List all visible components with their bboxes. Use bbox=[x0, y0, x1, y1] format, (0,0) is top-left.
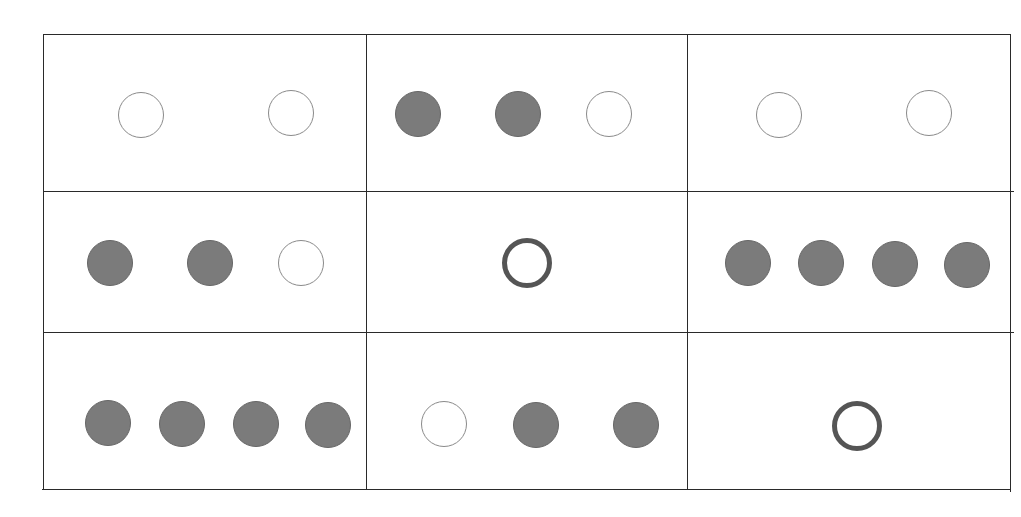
filled-circle-icon bbox=[85, 400, 131, 446]
filled-circle-icon bbox=[233, 401, 279, 447]
filled-circle-icon bbox=[944, 242, 990, 288]
grid-line-horizontal-2 bbox=[43, 191, 1014, 192]
empty-circle-icon bbox=[268, 90, 314, 136]
grid-line-horizontal-4 bbox=[42, 489, 1010, 490]
grid-line-vertical-1 bbox=[43, 34, 44, 490]
grid-line-horizontal-3 bbox=[43, 332, 1014, 333]
empty-circle-icon bbox=[421, 401, 467, 447]
grid-line-vertical-4 bbox=[1010, 34, 1011, 492]
filled-circle-icon bbox=[395, 91, 441, 137]
empty-circle-icon bbox=[586, 91, 632, 137]
thick-ring-icon bbox=[502, 238, 552, 288]
empty-circle-icon bbox=[756, 92, 802, 138]
filled-circle-icon bbox=[495, 91, 541, 137]
thick-ring-icon bbox=[832, 401, 882, 451]
filled-circle-icon bbox=[725, 240, 771, 286]
grid-line-vertical-2 bbox=[366, 34, 367, 490]
grid-line-vertical-3 bbox=[687, 34, 688, 490]
empty-circle-icon bbox=[906, 90, 952, 136]
filled-circle-icon bbox=[798, 240, 844, 286]
filled-circle-icon bbox=[187, 240, 233, 286]
empty-circle-icon bbox=[118, 92, 164, 138]
filled-circle-icon bbox=[305, 402, 351, 448]
filled-circle-icon bbox=[159, 401, 205, 447]
filled-circle-icon bbox=[87, 240, 133, 286]
grid-line-horizontal-1 bbox=[43, 34, 1010, 35]
filled-circle-icon bbox=[513, 402, 559, 448]
filled-circle-icon bbox=[613, 402, 659, 448]
filled-circle-icon bbox=[872, 241, 918, 287]
empty-circle-icon bbox=[278, 240, 324, 286]
